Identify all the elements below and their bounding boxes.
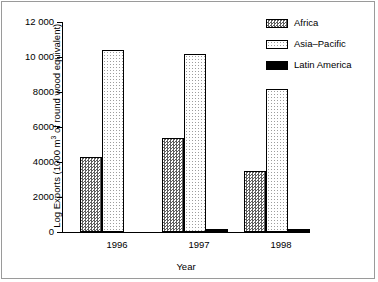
legend-entry-latin-america[interactable]: Latin America (266, 59, 352, 71)
x-tick-label-1998: 1998 (270, 240, 291, 250)
y-tick-label: 4000 (33, 157, 54, 167)
legend-label-latin-america: Latin America (294, 60, 352, 70)
legend-entry-asia-pacific[interactable]: Asia–Pacific (266, 38, 352, 50)
bar-africa-1997[interactable] (162, 138, 184, 233)
x-axis-title: Year (62, 262, 310, 272)
y-tick-label: 0 (49, 227, 54, 237)
y-tick-label: 2000 (33, 192, 54, 202)
y-tick-label: 6000 (33, 122, 54, 132)
legend-entry-africa[interactable]: Africa (266, 17, 352, 29)
bar-asia-pacific-1996[interactable] (102, 50, 124, 232)
x-tick-label-1996: 1996 (106, 240, 127, 250)
bar-africa-1998[interactable] (244, 171, 266, 232)
chart-legend: Africa Asia–Pacific Latin America (266, 17, 352, 80)
chart-figure: Log Exports (1000 m3 of round wood equiv… (0, 0, 378, 282)
bar-asia-pacific-1998[interactable] (266, 89, 288, 233)
bar-africa-1996[interactable] (80, 157, 102, 232)
y-axis-title-suffix: of round wood equivalent) (51, 24, 62, 136)
bar-group-1997 (162, 22, 234, 232)
legend-swatch-asia-pacific-icon (266, 40, 288, 49)
bar-group-1996 (80, 22, 152, 232)
legend-swatch-africa-icon (266, 19, 288, 28)
x-axis-line (62, 232, 310, 233)
legend-swatch-latin-america-icon (266, 61, 288, 70)
y-tick-label: 10 000 (25, 52, 54, 62)
legend-label-africa: Africa (294, 18, 318, 28)
y-tick-label: 8000 (33, 87, 54, 97)
legend-label-asia-pacific: Asia–Pacific (294, 39, 346, 49)
bar-asia-pacific-1997[interactable] (184, 54, 206, 233)
x-tick-label-1997: 1997 (188, 240, 209, 250)
y-axis-title-exponent: 3 (50, 136, 57, 140)
y-tick-label: 12 000 (25, 17, 54, 27)
y-axis-title-prefix: Log Exports (1000 m (51, 140, 62, 228)
y-axis-line (62, 22, 63, 233)
